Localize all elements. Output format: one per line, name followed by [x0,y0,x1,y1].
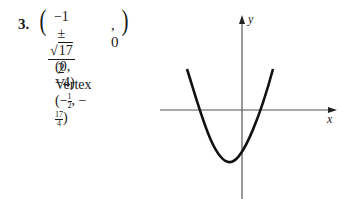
x-axis-label: x [327,112,332,127]
parabola-graph [0,0,352,199]
parabola-curve [187,69,273,162]
y-axis-label: y [248,12,253,27]
y-axis-arrow-icon [239,15,245,24]
